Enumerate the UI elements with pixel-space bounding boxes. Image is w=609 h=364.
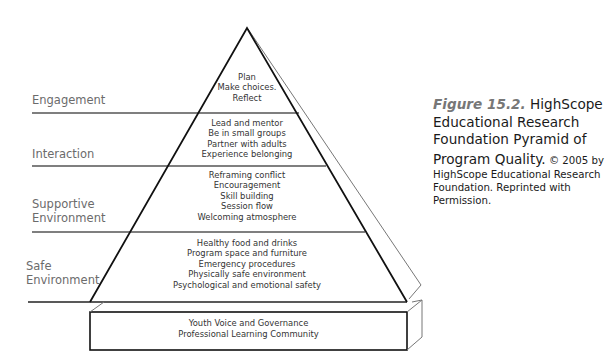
tier-items-safe-environment: Healthy food and drinks Program space an… xyxy=(147,238,347,290)
pyramid-diagram: Engagement Interaction Supportive Enviro… xyxy=(0,0,609,364)
figure-number: Figure 15.2. xyxy=(433,96,526,112)
base-item: Youth Voice and Governance xyxy=(90,318,407,329)
tier-label-interaction: Interaction xyxy=(32,147,94,161)
tier-item: Skill building xyxy=(167,191,327,201)
caption-line-4: Program Quality. © 2005 by xyxy=(433,149,609,169)
base-item: Professional Learning Community xyxy=(90,329,407,340)
tier-item: Plan xyxy=(187,72,307,82)
caption-line-6: Foundation. Reprinted with xyxy=(433,181,609,194)
tier-item: Reframing conflict xyxy=(167,170,327,180)
base-items: Youth Voice and Governance Professional … xyxy=(90,318,407,340)
tier-item: Psychological and emotional safety xyxy=(147,280,347,290)
caption-line-2: Educational Research xyxy=(433,114,609,132)
tier-item: Emergency procedures xyxy=(147,259,347,269)
tier-item: Physically safe environment xyxy=(147,269,347,279)
tier-item: Reflect xyxy=(187,93,307,103)
tier-item: Welcoming atmosphere xyxy=(167,212,327,222)
tier-label-safe-environment: Safe Environment xyxy=(26,259,99,287)
tier-item: Program space and furniture xyxy=(147,248,347,258)
tier-item: Make choices. xyxy=(187,82,307,92)
caption-line-3: Foundation Pyramid of xyxy=(433,131,609,149)
tier-label-supportive-environment: Supportive Environment xyxy=(32,197,105,225)
tier-item: Partner with adults xyxy=(177,139,317,149)
caption-line-7: Permission. xyxy=(433,194,609,207)
tier-item: Be in small groups xyxy=(177,128,317,138)
tier-items-engagement: Plan Make choices. Reflect xyxy=(187,72,307,103)
tier-label-engagement: Engagement xyxy=(32,93,105,107)
base-box-side xyxy=(407,300,422,350)
tier-item: Session flow xyxy=(167,201,327,211)
caption-line-1: Figure 15.2. HighScope xyxy=(433,96,609,114)
tier-item: Healthy food and drinks xyxy=(147,238,347,248)
base-box-top-left xyxy=(90,302,104,312)
tier-items-supportive-environment: Reframing conflict Encouragement Skill b… xyxy=(167,170,327,222)
caption-line-5: HighScope Educational Research xyxy=(433,168,609,181)
tier-item: Encouragement xyxy=(167,180,327,190)
figure-caption: Figure 15.2. HighScope Educational Resea… xyxy=(433,96,609,207)
tier-item: Lead and mentor xyxy=(177,118,317,128)
tier-items-interaction: Lead and mentor Be in small groups Partn… xyxy=(177,118,317,160)
tier-item: Experience belonging xyxy=(177,149,317,159)
